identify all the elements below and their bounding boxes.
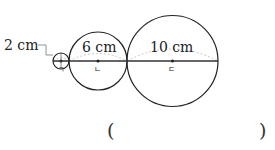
answer-blank[interactable] bbox=[125, 121, 255, 141]
small-center-label: ㄱ bbox=[58, 66, 64, 74]
answer-open-paren: ( bbox=[107, 119, 114, 141]
medium-diameter-label: 6 cm bbox=[82, 39, 116, 55]
answer-close-paren: ) bbox=[259, 119, 266, 141]
large-diameter-label: 10 cm bbox=[150, 39, 193, 55]
large-center-label: ㄷ bbox=[168, 65, 175, 74]
large-center-dot bbox=[171, 60, 174, 63]
medium-center-label: ㄴ bbox=[94, 65, 101, 74]
medium-center-dot bbox=[97, 60, 100, 63]
small-diameter-label: 2 cm bbox=[4, 37, 38, 53]
leader-line bbox=[38, 45, 53, 55]
